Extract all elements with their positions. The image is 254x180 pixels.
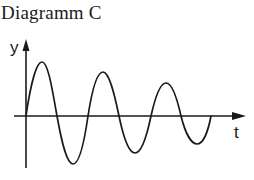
t-axis-label: t xyxy=(234,123,239,142)
y-axis-arrow-icon xyxy=(23,39,30,51)
y-axis-label: y xyxy=(10,38,19,57)
t-axis-arrow-icon xyxy=(232,112,246,120)
damped-wave-curve xyxy=(26,62,211,164)
damped-oscillation-diagram: y t xyxy=(0,0,254,180)
